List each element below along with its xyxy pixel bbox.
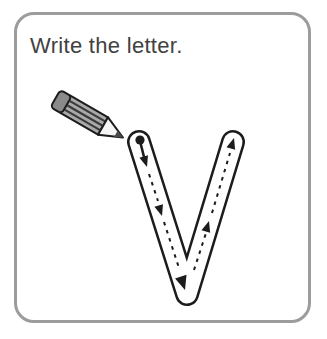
worksheet-page: Write the letter. [0,0,327,339]
letter-v-inner [139,142,233,294]
letter-v-outline [139,142,233,294]
pencil-icon [50,90,128,146]
tracing-art [0,0,327,339]
